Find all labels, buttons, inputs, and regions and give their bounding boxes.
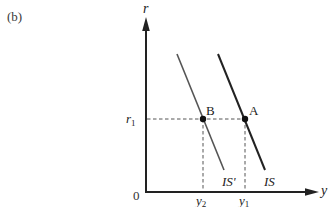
point-a-label: A: [249, 103, 259, 118]
y-axis-label: y: [319, 183, 328, 198]
origin-label: 0: [133, 188, 140, 203]
is-label: IS: [263, 174, 275, 189]
is-shift-diagram: (b) r y 0 r1 y2 y1 IS' IS B A: [0, 0, 331, 207]
r-axis-arrow-icon: [142, 17, 150, 31]
panel-label: (b): [7, 9, 22, 24]
is-prime-label: IS': [221, 174, 236, 189]
r-axis: [142, 17, 150, 192]
y-axis: [145, 188, 319, 196]
y2-label: y2: [194, 193, 206, 207]
point-b-label: B: [206, 103, 215, 118]
r-axis-label: r: [143, 1, 149, 16]
y1-label: y1: [237, 193, 249, 207]
point-a: [242, 116, 248, 122]
r1-label: r1: [126, 111, 136, 128]
y-axis-arrow-icon: [305, 188, 319, 196]
is-prime-curve: [177, 54, 224, 170]
